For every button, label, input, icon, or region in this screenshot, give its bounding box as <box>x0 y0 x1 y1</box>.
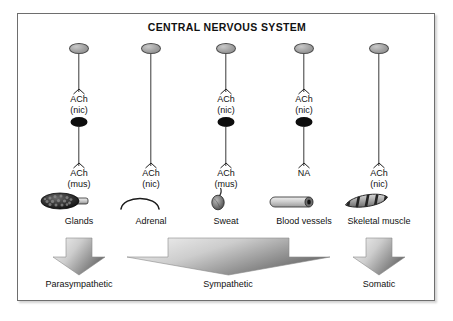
preganglionic-transmitter-label: ACh (nic) <box>70 94 88 115</box>
diagram-canvas: CENTRAL NERVOUS SYSTEM ACh (nic) ACh (mu… <box>0 0 453 321</box>
organ-label-sweat: Sweat <box>213 216 238 226</box>
sweat-gland-icon <box>220 186 233 212</box>
transmitter-name: ACh <box>142 168 160 179</box>
cns-soma-icon <box>141 43 161 54</box>
organ-label-skeletal-muscle: Skeletal muscle <box>347 216 410 226</box>
skeletal-muscle-icon <box>367 190 392 212</box>
adrenal-icon <box>140 191 162 211</box>
postganglionic-axon <box>303 126 304 166</box>
receptor-type: (nic) <box>70 105 88 116</box>
receptor-type: (nic) <box>142 179 160 190</box>
preganglionic-transmitter-label: ACh (nic) <box>295 94 313 115</box>
transmitter-name: ACh <box>215 168 238 179</box>
page-title: CENTRAL NERVOUS SYSTEM <box>18 21 436 33</box>
division-arrow-somatic <box>352 238 406 276</box>
motor-axon <box>378 54 379 166</box>
receptor-type: (nic) <box>295 105 313 116</box>
preganglionic-axon <box>150 54 151 166</box>
transmitter-name: ACh <box>370 168 388 179</box>
cns-soma-icon <box>369 43 389 54</box>
receptor-type: (nic) <box>217 105 235 116</box>
organ-label-adrenal: Adrenal <box>135 216 166 226</box>
division-label-sympathetic: Sympathetic <box>203 279 253 289</box>
preganglionic-axon <box>303 54 304 92</box>
postganglionic-transmitter-label: NA <box>298 168 311 179</box>
transmitter-name: ACh <box>70 94 88 105</box>
transmitter-name: NA <box>298 168 311 179</box>
transmitter-name: ACh <box>68 168 91 179</box>
postganglionic-transmitter-label: ACh (mus) <box>68 168 91 189</box>
receptor-type: (nic) <box>370 179 388 190</box>
diagram-frame: CENTRAL NERVOUS SYSTEM ACh (nic) ACh (mu… <box>17 13 435 301</box>
preganglionic-transmitter-label: ACh (nic) <box>370 168 388 189</box>
division-label-parasympathetic: Parasympathetic <box>45 279 112 289</box>
blood-vessel-icon <box>292 194 316 210</box>
receptor-type: (mus) <box>68 179 91 190</box>
gland-icon <box>66 191 92 211</box>
preganglionic-transmitter-label: ACh (nic) <box>142 168 160 189</box>
transmitter-name: ACh <box>295 94 313 105</box>
postganglionic-axon <box>225 126 226 166</box>
division-arrow-parasympathetic <box>52 238 106 276</box>
organ-label-glands: Glands <box>65 216 94 226</box>
transmitter-name: ACh <box>217 94 235 105</box>
cns-soma-icon <box>69 43 89 54</box>
cns-soma-icon <box>294 43 314 54</box>
preganglionic-axon <box>225 54 226 92</box>
cns-soma-icon <box>216 43 236 54</box>
division-label-somatic: Somatic <box>363 279 396 289</box>
postganglionic-axon <box>78 126 79 166</box>
preganglionic-transmitter-label: ACh (nic) <box>217 94 235 115</box>
preganglionic-axon <box>78 54 79 92</box>
division-arrow-sympathetic <box>126 238 331 276</box>
organ-label-blood-vessels: Blood vessels <box>276 216 332 226</box>
